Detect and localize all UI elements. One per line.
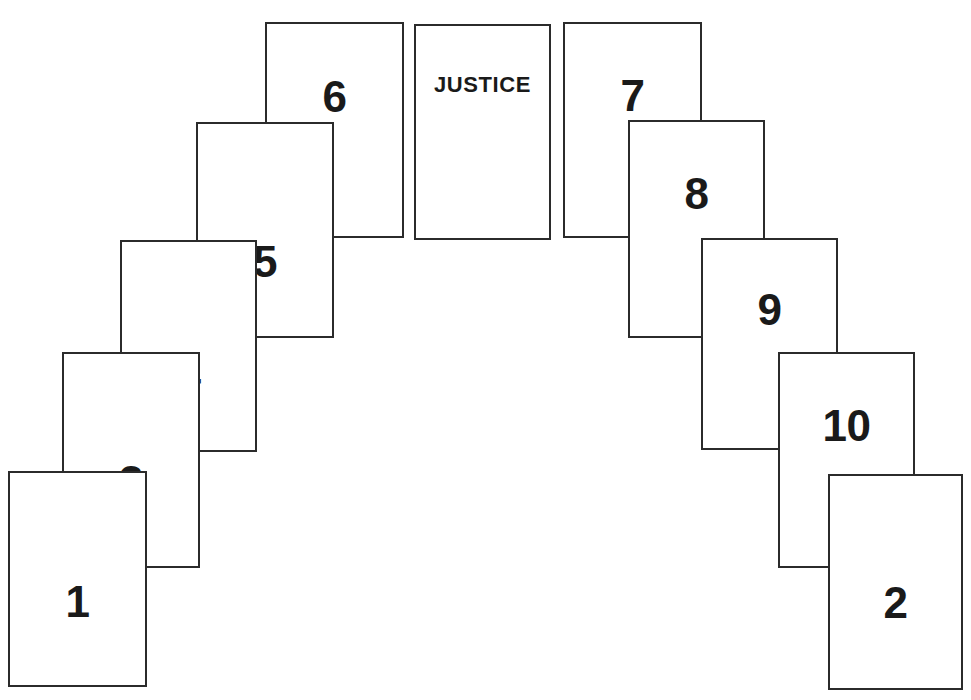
card-7-label: 7: [565, 74, 700, 118]
tarot-spread-canvas: 13456JUSTICE789102: [0, 0, 971, 700]
card-2[interactable]: 2: [828, 474, 963, 690]
card-1-label: 1: [10, 580, 145, 624]
card-8-label: 8: [630, 172, 763, 216]
card-6-label: 6: [267, 75, 402, 119]
card-2-label: 2: [830, 581, 961, 625]
card-1[interactable]: 1: [8, 471, 147, 687]
card-justice-label: JUSTICE: [416, 74, 549, 96]
card-9-label: 9: [703, 288, 836, 332]
card-justice[interactable]: JUSTICE: [414, 24, 551, 240]
card-10-label: 10: [780, 404, 913, 448]
